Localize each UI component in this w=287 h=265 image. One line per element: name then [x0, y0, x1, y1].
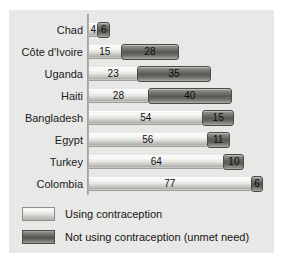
category-label: Chad	[9, 19, 83, 41]
stacked-bar: 776	[89, 176, 263, 192]
bar-value-unmet-need: 15	[202, 110, 234, 126]
legend-item: Not using contraception (unmet need)	[22, 229, 272, 246]
stacked-bar: 2335	[89, 66, 211, 82]
category-label: Bangladesh	[9, 107, 83, 129]
category-label: Turkey	[9, 151, 83, 173]
legend-label: Not using contraception (unmet need)	[65, 229, 249, 246]
stacked-bar: 5611	[89, 132, 230, 148]
bar-value-unmet-need: 11	[207, 132, 230, 148]
category-label: Colombia	[9, 173, 83, 195]
bar-row: Uganda2335	[9, 63, 274, 85]
category-label: Côte d'Ivoire	[9, 41, 83, 63]
bar-value-using-contraception: 15	[89, 44, 121, 60]
legend-swatch-dark	[22, 230, 55, 244]
bar-value-using-contraception: 4	[89, 22, 97, 38]
stacked-bar: 5415	[89, 110, 234, 126]
bar-value-using-contraception: 23	[89, 66, 137, 82]
stacked-bar: 6410	[89, 154, 244, 170]
bar-row: Turkey6410	[9, 151, 274, 173]
bar-value-unmet-need: 10	[223, 154, 244, 170]
bar-value-unmet-need: 6	[251, 176, 264, 192]
category-label: Uganda	[9, 63, 83, 85]
legend-item: Using contraception	[22, 206, 272, 223]
category-label: Egypt	[9, 129, 83, 151]
bar-row: Côte d'Ivoire1528	[9, 41, 274, 63]
bar-value-using-contraception: 64	[89, 154, 223, 170]
bar-row: Egypt5611	[9, 129, 274, 151]
stacked-bar: 1528	[89, 44, 179, 60]
bar-row: Bangladesh5415	[9, 107, 274, 129]
bar-row: Colombia776	[9, 173, 274, 195]
legend-swatch-light	[22, 207, 55, 221]
bar-value-unmet-need: 28	[121, 44, 180, 60]
bar-value-unmet-need: 35	[137, 66, 211, 82]
bar-value-using-contraception: 56	[89, 132, 207, 148]
legend-label: Using contraception	[65, 206, 162, 223]
bar-row: Haiti2840	[9, 85, 274, 107]
stacked-bar: 2840	[89, 88, 232, 104]
bar-value-using-contraception: 28	[89, 88, 148, 104]
chart-panel: Chad46Côte d'Ivoire1528Uganda2335Haiti28…	[9, 10, 274, 253]
bar-row: Chad46	[9, 19, 274, 41]
plot-area: Chad46Côte d'Ivoire1528Uganda2335Haiti28…	[9, 10, 274, 197]
stacked-bar: 46	[89, 22, 110, 38]
bar-value-unmet-need: 40	[148, 88, 232, 104]
bar-value-unmet-need: 6	[97, 22, 110, 38]
bar-value-using-contraception: 77	[89, 176, 251, 192]
bar-value-using-contraception: 54	[89, 110, 202, 126]
category-label: Haiti	[9, 85, 83, 107]
chart-legend: Using contraceptionNot using contracepti…	[22, 206, 272, 252]
